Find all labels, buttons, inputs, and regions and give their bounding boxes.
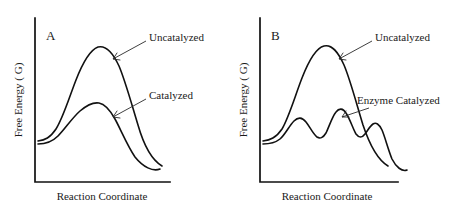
panel-a-x-axis-label: Reaction Coordinate [57,190,148,202]
panel-a: A Uncatalyzed Catalyzed Free Energy ( G)… [0,0,238,213]
panel-a-catalyzed-arrowhead [113,111,120,118]
panel-a-uncatalyzed-curve [38,47,162,166]
panel-b-enzyme-catalyzed-curve [263,109,407,170]
panel-b-uncatalyzed-leader [339,41,372,59]
panel-b: B Uncatalyzed Enzyme Catalyzed Free Ener… [238,0,476,213]
panel-a-annotation-uncatalyzed: Uncatalyzed [149,31,204,43]
panel-a-catalyzed-leader [113,99,146,117]
free-energy-diagram-figure: A Uncatalyzed Catalyzed Free Energy ( G)… [0,0,476,213]
panel-a-uncatalyzed-leader [113,41,146,59]
panel-b-annotation-enzyme-catalyzed: Enzyme Catalyzed [357,94,440,106]
panel-a-y-axis-label: Free Energy ( G) [12,62,25,137]
panel-b-annotation-uncatalyzed: Uncatalyzed [375,31,430,43]
panel-b-letter: B [271,28,280,43]
panel-a-annotation-catalyzed: Catalyzed [149,89,193,101]
panel-b-y-axis-label: Free Energy ( G) [238,62,250,137]
panel-a-letter: A [46,28,56,43]
panel-b-x-axis-label: Reaction Coordinate [282,190,373,202]
